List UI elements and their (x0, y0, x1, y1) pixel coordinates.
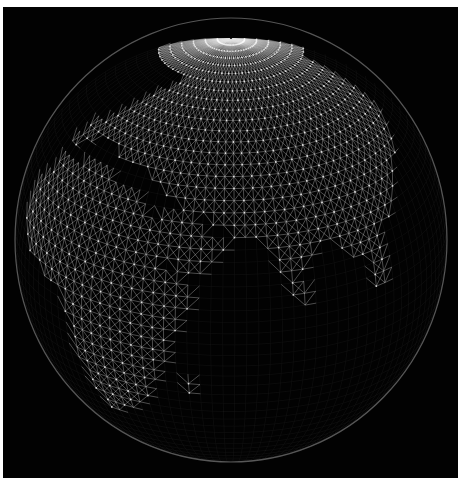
globe-mesh-render (0, 0, 465, 494)
